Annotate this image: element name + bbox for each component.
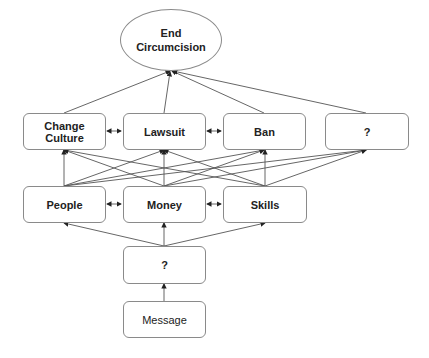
strategy-node-change-culture: Change Culture [23, 113, 106, 150]
node-label: Message [142, 314, 187, 326]
node-label: ? [161, 259, 168, 271]
node-label: People [46, 199, 82, 211]
node-label: Ban [254, 126, 275, 138]
node-label: Money [147, 199, 182, 211]
resource-node-skills: Skills [223, 186, 307, 223]
source-node-message: Message [123, 301, 206, 338]
goal-line1: End [161, 26, 182, 40]
intermediate-node-unknown: ? [123, 246, 206, 284]
goal-line2: Circumcision [136, 40, 206, 54]
node-label: Lawsuit [144, 126, 185, 138]
resource-node-people: People [23, 186, 106, 223]
node-label: ? [364, 126, 371, 138]
strategy-node-ban: Ban [223, 113, 306, 150]
strategy-node-unknown: ? [325, 113, 409, 150]
goal-node-end-circumcision: End Circumcision [120, 9, 222, 71]
strategy-node-lawsuit: Lawsuit [123, 113, 206, 150]
node-label: Change Culture [24, 120, 105, 144]
node-label: Skills [251, 199, 280, 211]
resource-node-money: Money [123, 186, 206, 223]
